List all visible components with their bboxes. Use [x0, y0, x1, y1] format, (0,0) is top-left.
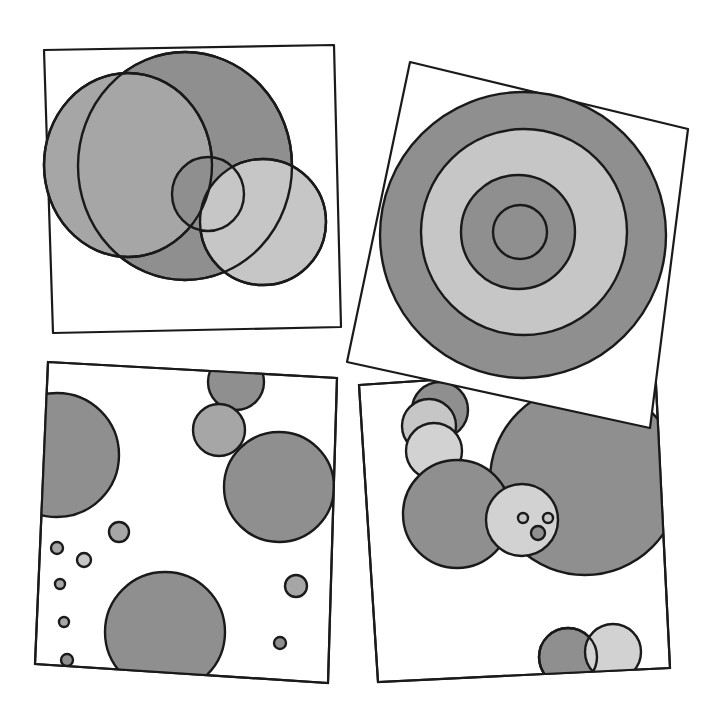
- dot: [274, 637, 286, 649]
- dot: [77, 553, 91, 567]
- panel-top-right: [347, 62, 688, 428]
- illustration-canvas: [0, 0, 726, 723]
- dot: [109, 522, 129, 542]
- panel-top-left: [44, 45, 341, 333]
- circle-bottom-large: [105, 572, 225, 692]
- circle-right-large: [224, 432, 334, 542]
- dot: [285, 575, 307, 597]
- dot: [61, 654, 73, 666]
- dot: [55, 579, 65, 589]
- circle-top-mid: [193, 404, 245, 456]
- circle-top-small: [208, 354, 264, 410]
- ring-center: [493, 205, 547, 259]
- face-eye-left: [518, 513, 528, 523]
- face-mouth: [531, 526, 545, 540]
- dot: [59, 617, 69, 627]
- face-eye-right: [543, 513, 553, 523]
- circle-half-left: [0, 393, 119, 517]
- panel-bottom-left: [0, 354, 337, 692]
- dot: [51, 542, 63, 554]
